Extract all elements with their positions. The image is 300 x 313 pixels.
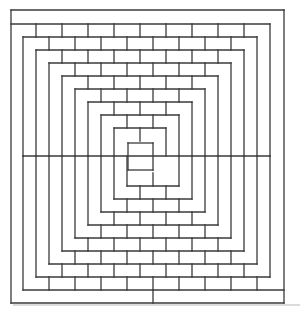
pattern-lines bbox=[11, 10, 284, 303]
brick-pattern-diagram bbox=[0, 0, 300, 313]
